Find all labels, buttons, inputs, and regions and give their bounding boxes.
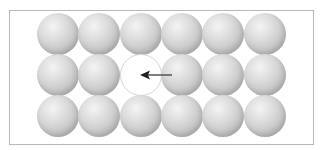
atom-sphere [244, 95, 286, 137]
atom-sphere [120, 13, 162, 55]
atom-sphere [37, 13, 79, 55]
atom-sphere [37, 95, 79, 137]
atom-sphere [244, 13, 286, 55]
atom-sphere [37, 54, 79, 96]
atom-sphere [78, 95, 120, 137]
atom-sphere [244, 54, 286, 96]
atom-sphere [202, 95, 244, 137]
atom-sphere [78, 54, 120, 96]
atom-sphere [120, 95, 162, 137]
atom-sphere [161, 13, 203, 55]
atom-sphere [161, 95, 203, 137]
atom-sphere [202, 54, 244, 96]
arrow-left-icon [140, 69, 174, 81]
atom-sphere [202, 13, 244, 55]
atom-sphere [78, 13, 120, 55]
